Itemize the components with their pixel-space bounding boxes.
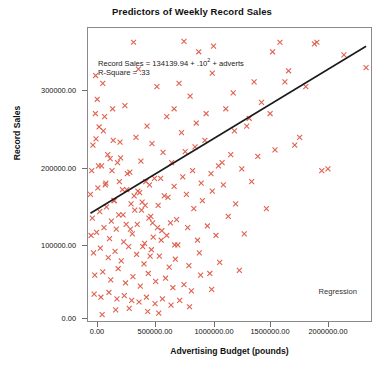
equation-suffix: + adverts — [210, 59, 244, 68]
plot-area: Record Sales = 134139.94 + .102 + advert… — [87, 27, 372, 322]
x-axis-label: Advertising Budget (pounds) — [87, 346, 372, 356]
r-square-annotation: R-Square = .33 — [98, 67, 150, 78]
legend-regression-label: Regression — [319, 287, 357, 296]
y-axis: 300000.00 200000.00 100000.00 0.00 — [0, 0, 87, 372]
scatter-chart: Predictors of Weekly Record Sales 300000… — [0, 0, 384, 372]
y-tick-label: 100000.00 — [4, 241, 76, 250]
x-tick-label: 2000000.00 — [288, 327, 368, 336]
y-tick-label: 0.00 — [4, 314, 76, 323]
y-axis-label: Record Sales — [12, 88, 22, 178]
